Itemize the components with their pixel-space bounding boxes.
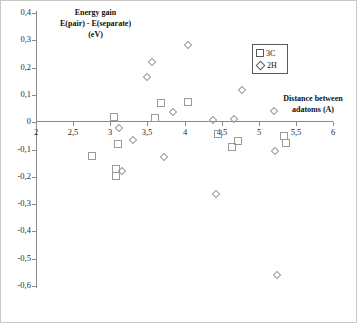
legend-item-3c: 3C	[256, 47, 287, 59]
data-point-2h	[143, 73, 151, 81]
x-tick-label: 6	[320, 127, 346, 137]
data-point-3c	[110, 113, 118, 121]
y-tick	[32, 204, 37, 205]
data-point-2h	[148, 58, 156, 66]
x-tick-label: 2	[23, 127, 49, 137]
data-point-2h	[169, 107, 177, 115]
legend-box: 3C 2H	[252, 44, 288, 74]
data-point-3c	[114, 140, 122, 148]
y-tick-label: -0,5	[3, 254, 31, 263]
data-point-3c	[234, 137, 242, 145]
legend-item-2h: 2H	[256, 59, 287, 71]
y-tick-label: 0	[3, 117, 31, 126]
x-tick-label: 3,5	[134, 127, 160, 137]
legend-label-2h: 2H	[267, 61, 277, 70]
legend-diamond-marker-icon	[256, 60, 266, 70]
y-tick	[32, 231, 37, 232]
x-tick	[296, 122, 297, 126]
plot-area: 0,40,30,20,10-0,1-0,2-0,3-0,4-0,5-0,6 22…	[1, 1, 357, 323]
chart-figure: 0,40,30,20,10-0,1-0,2-0,3-0,4-0,5-0,6 22…	[0, 0, 357, 323]
y-tick-label: 0,2	[3, 63, 31, 72]
data-point-2h	[238, 86, 246, 94]
data-point-3c	[214, 130, 222, 138]
x-axis-title: Distance betweenadatoms (A)	[269, 93, 357, 115]
x-tick	[259, 122, 260, 126]
data-point-3c	[184, 98, 192, 106]
legend-square-marker-icon	[256, 49, 264, 57]
x-tick	[185, 122, 186, 126]
x-tick	[147, 122, 148, 126]
y-tick	[32, 286, 37, 287]
y-tick	[32, 95, 37, 96]
x-tick-label: 4,5	[209, 127, 235, 137]
legend-label-3c: 3C	[266, 49, 275, 58]
y-tick-label: -0,6	[3, 281, 31, 290]
data-point-2h	[273, 270, 281, 278]
data-point-2h	[208, 116, 216, 124]
y-tick-label: 0,1	[3, 90, 31, 99]
x-tick-label: 5	[246, 127, 272, 137]
data-point-3c	[157, 99, 165, 107]
x-tick	[73, 122, 74, 126]
y-tick-label: 0,4	[3, 8, 31, 17]
data-point-2h	[159, 152, 167, 160]
y-tick	[32, 259, 37, 260]
y-tick-label: -0,3	[3, 199, 31, 208]
y-tick-label: 0,3	[3, 35, 31, 44]
data-point-3c	[88, 152, 96, 160]
data-point-2h	[271, 147, 279, 155]
y-tick-label: -0,4	[3, 226, 31, 235]
x-tick-label: 4	[172, 127, 198, 137]
data-point-3c	[282, 139, 290, 147]
x-tick-label: 2,5	[60, 127, 86, 137]
data-point-3c	[151, 114, 159, 122]
y-tick-label: -0,1	[3, 145, 31, 154]
y-tick	[32, 177, 37, 178]
y-tick-label: -0,2	[3, 172, 31, 181]
y-tick	[32, 40, 37, 41]
y-tick	[32, 150, 37, 151]
x-tick	[222, 122, 223, 126]
y-tick	[32, 13, 37, 14]
chart-title: Energy gainE(pair) - E(separate)(eV)	[43, 7, 148, 40]
y-tick	[32, 68, 37, 69]
x-tick	[110, 122, 111, 126]
data-point-2h	[183, 41, 191, 49]
data-point-2h	[211, 190, 219, 198]
x-tick	[36, 122, 37, 126]
x-tick	[333, 122, 334, 126]
